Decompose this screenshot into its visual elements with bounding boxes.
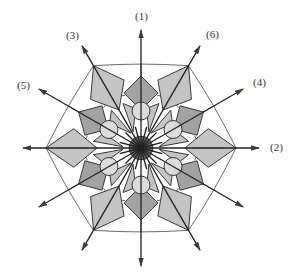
axis-label-5: (5): [17, 80, 30, 91]
axis-label-6: (6): [206, 29, 219, 40]
diagram-canvas: [0, 0, 300, 280]
axis-label-4: (4): [253, 77, 266, 88]
axis-label-3: (3): [66, 30, 79, 41]
axis-arrows: [23, 30, 259, 266]
axis-label-1: (1): [135, 11, 148, 22]
axis-label-2: (2): [270, 142, 283, 153]
hexagonal-symmetry-diagram: (1) (2) (3) (4) (5) (6): [0, 0, 300, 280]
